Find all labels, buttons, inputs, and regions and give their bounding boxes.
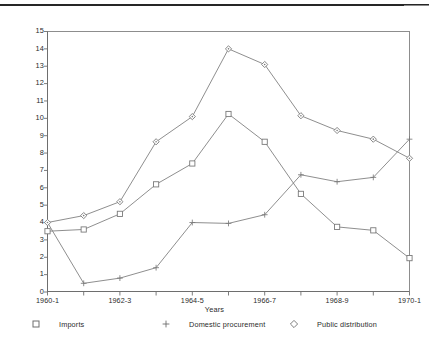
diamond-data-point-marker [298, 113, 304, 119]
series-line-domestic-procurement [48, 139, 410, 283]
diamond-data-point-marker [225, 46, 231, 52]
square-data-point-marker [371, 228, 376, 233]
series-line-imports [48, 114, 410, 258]
diamond-data-point-marker [370, 136, 376, 142]
square-marker-icon [30, 318, 42, 330]
chart-legend: Imports Domestic procurement Public dist… [0, 317, 429, 333]
plus-marker-icon [160, 318, 172, 330]
diamond-data-point-marker [44, 219, 50, 225]
square-data-point-marker [117, 211, 122, 216]
square-data-point-marker [298, 191, 303, 196]
square-data-point-marker [226, 111, 231, 116]
plus-data-point-marker [334, 179, 340, 185]
diamond-data-point-marker [262, 61, 268, 67]
x-axis-title: Years [0, 305, 429, 314]
plot-series-layer [0, 0, 429, 340]
square-data-point-marker [335, 224, 340, 229]
plus-data-point-marker [226, 221, 232, 227]
plus-data-point-marker [81, 280, 87, 286]
series-line-public-distribution [48, 49, 410, 223]
square-data-point-marker [45, 229, 50, 234]
square-data-point-marker [154, 182, 159, 187]
diamond-data-point-marker [153, 139, 159, 145]
plus-data-point-marker [117, 275, 123, 281]
page-canvas: 0123456789101112131415 1960-11962-31964-… [0, 0, 429, 340]
square-data-point-marker [262, 139, 267, 144]
legend-label-public-distribution: Public distribution [317, 320, 377, 329]
diamond-data-point-marker [117, 199, 123, 205]
legend-item-imports: Imports [30, 317, 84, 331]
square-data-point-marker [190, 161, 195, 166]
diamond-data-point-marker [81, 212, 87, 218]
diamond-marker-icon [288, 318, 300, 330]
diamond-data-point-marker [406, 155, 412, 161]
square-data-point-marker [81, 227, 86, 232]
legend-label-imports: Imports [59, 320, 84, 329]
line-chart: 0123456789101112131415 1960-11962-31964-… [0, 0, 429, 340]
square-data-point-marker [407, 256, 412, 261]
diamond-data-point-marker [334, 127, 340, 133]
legend-item-domestic-procurement: Domestic procurement [160, 317, 265, 331]
legend-item-public-distribution: Public distribution [288, 317, 377, 331]
diamond-data-point-marker [189, 113, 195, 119]
legend-label-domestic-procurement: Domestic procurement [189, 320, 265, 329]
